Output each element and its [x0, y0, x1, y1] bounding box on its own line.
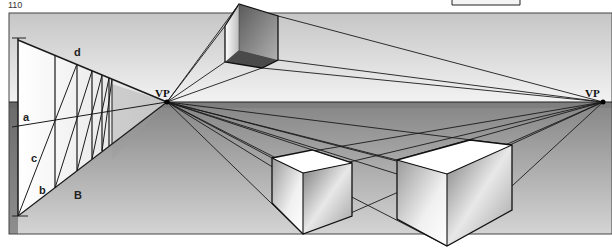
floating-cube — [225, 4, 278, 68]
label-vp-left: VP — [155, 87, 170, 99]
left-shadow-strip — [9, 102, 18, 234]
label-d: d — [74, 46, 81, 58]
label-vp-right: VP — [585, 87, 600, 99]
vanishing-point-right — [601, 100, 606, 105]
vanishing-point-left — [165, 100, 170, 105]
label-c: c — [31, 152, 37, 164]
label-a: a — [23, 111, 30, 123]
cropped-figure-edge — [452, 0, 520, 5]
label-b: b — [39, 184, 46, 196]
perspective-diagram: d a c b B VP VP — [0, 0, 612, 248]
label-B: B — [74, 189, 82, 201]
